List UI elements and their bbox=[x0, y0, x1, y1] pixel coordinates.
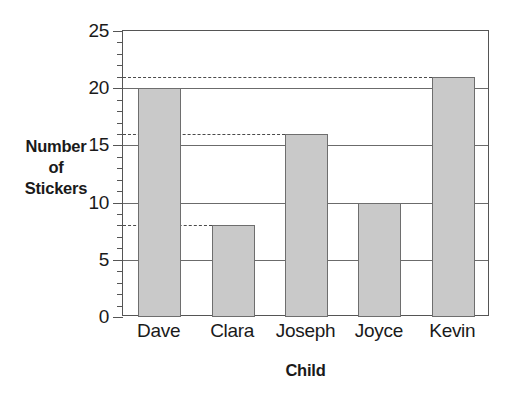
x-axis-title: Child bbox=[122, 361, 489, 380]
bar-clara bbox=[212, 225, 255, 317]
bar-joyce bbox=[358, 203, 401, 317]
y-axis-major-tick bbox=[113, 145, 123, 146]
y-axis-tick-label: 10 bbox=[88, 192, 109, 214]
y-axis-minor-tick bbox=[117, 180, 123, 181]
bar-joseph bbox=[285, 134, 328, 317]
y-axis-tick-label: 5 bbox=[99, 249, 109, 271]
y-axis-minor-tick bbox=[117, 168, 123, 169]
y-axis-minor-tick bbox=[117, 191, 123, 192]
y-axis-major-tick bbox=[113, 260, 123, 261]
y-axis-minor-tick bbox=[117, 65, 123, 66]
y-axis-minor-tick bbox=[117, 306, 123, 307]
y-axis-minor-tick bbox=[117, 283, 123, 284]
y-axis-minor-tick bbox=[117, 294, 123, 295]
y-axis-title-line-2: of bbox=[6, 157, 106, 178]
y-axis-tick-label: 15 bbox=[88, 134, 109, 156]
x-axis-label-kevin: Kevin bbox=[416, 320, 489, 342]
y-axis-minor-tick bbox=[117, 42, 123, 43]
y-axis-minor-tick bbox=[117, 54, 123, 55]
x-axis-label-joseph: Joseph bbox=[269, 320, 342, 342]
y-axis-major-tick bbox=[113, 31, 123, 32]
y-axis-major-tick bbox=[113, 317, 123, 318]
y-axis-minor-tick bbox=[117, 100, 123, 101]
bar-kevin bbox=[432, 77, 475, 317]
y-axis-tick-label: 25 bbox=[88, 20, 109, 42]
y-axis-minor-tick bbox=[117, 214, 123, 215]
x-axis-label-dave: Dave bbox=[122, 320, 195, 342]
y-axis-major-tick bbox=[113, 88, 123, 89]
bar-dave bbox=[138, 88, 181, 317]
bar-chart: Number of Stickers 0510152025 Child Dave… bbox=[0, 0, 511, 406]
y-axis-tick-label: 20 bbox=[88, 77, 109, 99]
x-axis-label-joyce: Joyce bbox=[342, 320, 415, 342]
y-axis-major-tick bbox=[113, 203, 123, 204]
plot-area: 0510152025 bbox=[122, 30, 489, 316]
y-axis-minor-tick bbox=[117, 248, 123, 249]
y-axis-tick-label: 0 bbox=[99, 306, 109, 328]
reference-line-21 bbox=[123, 77, 432, 78]
y-axis-minor-tick bbox=[117, 271, 123, 272]
y-axis-minor-tick bbox=[117, 237, 123, 238]
x-axis-label-clara: Clara bbox=[195, 320, 268, 342]
y-axis-minor-tick bbox=[117, 111, 123, 112]
y-axis-minor-tick bbox=[117, 123, 123, 124]
y-axis-minor-tick bbox=[117, 157, 123, 158]
